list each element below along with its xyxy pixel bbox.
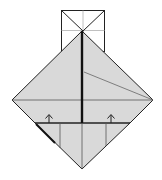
diamond-body (12, 31, 153, 169)
origami-diagram (0, 0, 162, 180)
